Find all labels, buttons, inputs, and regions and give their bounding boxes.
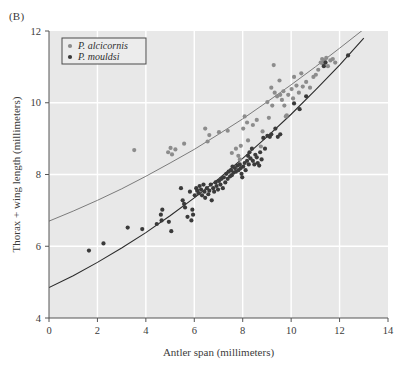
x-tick-labels: 02468101214 xyxy=(46,325,394,336)
y-tick-label: 6 xyxy=(36,241,41,252)
y-tick-labels: 4681012 xyxy=(31,26,42,324)
x-tick-label: 2 xyxy=(95,325,100,336)
x-axis-title: Antler span (millimeters) xyxy=(163,346,275,359)
legend-marker-dot-icon xyxy=(68,55,72,59)
scatter-plot: 02468101214 4681012 Antler span (millime… xyxy=(0,0,414,373)
y-tick-label: 10 xyxy=(31,97,42,108)
y-tick-label: 8 xyxy=(36,169,41,180)
figure-panel-b: (B) 02468101214 4681012 Antler span (mil… xyxy=(0,0,414,373)
x-tick-label: 6 xyxy=(192,325,197,336)
x-tick-label: 4 xyxy=(143,325,149,336)
legend-marker-dot-icon xyxy=(68,44,72,48)
y-axis-title: Thorax + wing length (millimeters) xyxy=(10,96,23,252)
x-tick-label: 8 xyxy=(240,325,245,336)
x-tick-label: 12 xyxy=(334,325,345,336)
y-tick-label: 4 xyxy=(36,313,42,324)
x-tick-label: 10 xyxy=(286,325,297,336)
legend-label: P. mouldsi xyxy=(77,51,120,62)
x-tick-label: 0 xyxy=(46,325,51,336)
legend: P. alcicornisP. mouldsi xyxy=(62,38,146,64)
x-tick-label: 14 xyxy=(383,325,394,336)
y-tick-label: 12 xyxy=(31,26,42,37)
legend-label: P. alcicornis xyxy=(77,40,128,51)
